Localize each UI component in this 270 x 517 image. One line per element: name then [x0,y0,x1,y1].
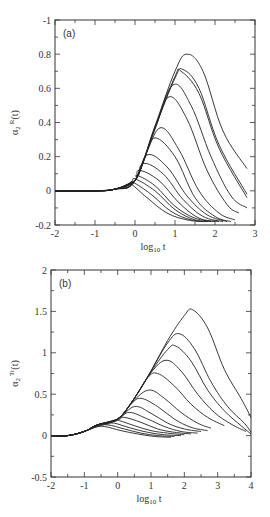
y-tick-label: 0.8 [39,49,52,60]
x-tick-label: -2 [51,228,59,239]
series-line-curve-2 [55,69,247,195]
series-line-curve-7 [55,138,231,222]
series-line-curve-13 [51,425,174,437]
x-tick-label: 2 [213,228,218,239]
y-tick-label: -0.2 [35,220,51,231]
x-tick-label: 2 [182,480,187,491]
series-line-curve-14 [51,426,171,437]
y-tick-label: 0.6 [39,83,52,94]
y-tick-label: 1.5 [35,306,48,317]
series-line-curve-11 [51,420,184,436]
y-axis-label: α2R(t) [8,110,22,135]
x-axis-label: log10 t [136,493,161,506]
x-tick-label: 1 [173,228,178,239]
series-line-curve-11 [55,175,215,221]
panel-label: (b) [59,278,71,289]
y-tick-label: -0.5 [31,472,47,483]
series-line-curve-4 [51,360,246,436]
series-line-curve-6 [55,128,235,220]
y-tick-label: 0 [42,430,47,441]
y-axis-label: α2Tr(t) [8,360,22,387]
panel-b: -2-101234-0.500.511.52(b)log10 tα2Tr(t) [8,265,254,507]
y-tick-label: -1 [43,15,51,26]
x-tick-label: 0 [115,480,120,491]
y-tick-label: 2 [42,265,47,276]
x-tick-label: -2 [47,480,55,491]
panel-a: -2-10123-0.200.20.40.60.8-1(a)log10 tα2R… [8,15,258,255]
y-tick-label: 0.5 [35,389,48,400]
series-line-curve-3 [55,69,247,198]
y-tick-label: 0 [46,185,51,196]
y-tick-label: 0.2 [39,151,52,162]
x-tick-label: 0 [133,228,138,239]
x-tick-label: 3 [215,480,220,491]
x-tick-label: 1 [149,480,154,491]
series-line-curve-1 [55,54,247,191]
x-tick-label: -1 [91,228,99,239]
curves [51,309,251,437]
x-tick-label: -1 [80,480,88,491]
series-line-curve-9 [55,163,223,221]
y-tick-label: 0.4 [39,117,52,128]
curves [55,54,247,221]
panel-label: (a) [63,28,75,39]
x-tick-label: 4 [249,480,254,491]
y-tick-label: 1 [42,347,47,358]
plot-frame [51,270,251,477]
series-line-curve-14 [55,183,203,221]
figure: -2-10123-0.200.20.40.60.8-1(a)log10 tα2R… [0,0,270,517]
plot-frame [55,20,255,225]
x-axis-label: log10 t [140,241,165,254]
x-tick-label: 3 [253,228,258,239]
